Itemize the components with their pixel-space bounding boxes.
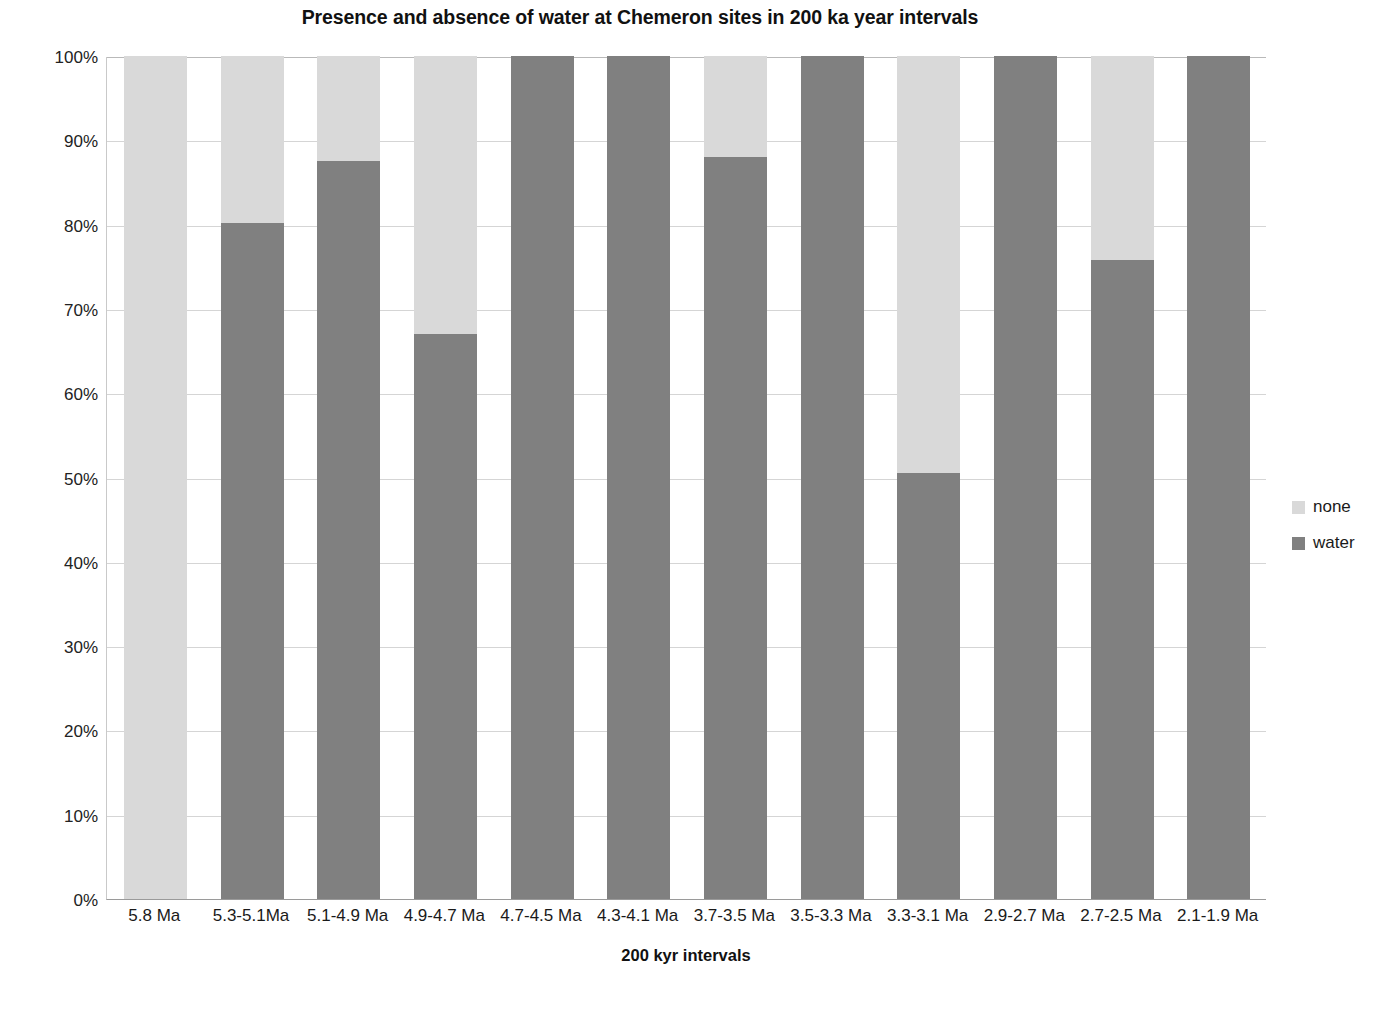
bar-segment-water[interactable] — [1091, 260, 1154, 899]
bar-segment-none[interactable] — [414, 56, 477, 334]
bar-segment-water[interactable] — [511, 56, 574, 899]
bar-group[interactable] — [704, 57, 767, 899]
bar-segment-none[interactable] — [704, 56, 767, 157]
x-tick-label: 3.5-3.3 Ma — [783, 906, 880, 926]
y-tick-label: 90% — [28, 132, 98, 152]
y-tick-label: 40% — [28, 554, 98, 574]
y-tick-label: 30% — [28, 638, 98, 658]
bar-segment-water[interactable] — [317, 161, 380, 899]
bar-group[interactable] — [511, 57, 574, 899]
x-tick-label: 4.9-4.7 Ma — [396, 906, 493, 926]
x-tick-label: 5.8 Ma — [106, 906, 203, 926]
x-tick-label: 2.9-2.7 Ma — [976, 906, 1073, 926]
bar-segment-water[interactable] — [1187, 56, 1250, 899]
bar-segment-none[interactable] — [124, 56, 187, 899]
bar-segment-none[interactable] — [897, 56, 960, 473]
legend-label: none — [1313, 497, 1351, 517]
bar-group[interactable] — [801, 57, 864, 899]
bar-segment-water[interactable] — [414, 334, 477, 899]
bar-group[interactable] — [221, 57, 284, 899]
bar-group[interactable] — [1091, 57, 1154, 899]
bar-segment-none[interactable] — [317, 56, 380, 161]
bar-segment-water[interactable] — [221, 223, 284, 899]
legend-swatch-icon — [1292, 537, 1305, 550]
chart-legend: nonewater — [1292, 489, 1376, 561]
chart-title: Presence and absence of water at Chemero… — [0, 6, 1280, 29]
bar-group[interactable] — [897, 57, 960, 899]
y-tick-label: 10% — [28, 807, 98, 827]
x-tick-label: 5.1-4.9 Ma — [299, 906, 396, 926]
bar-segment-none[interactable] — [1091, 56, 1154, 260]
bar-segment-water[interactable] — [994, 56, 1057, 899]
x-tick-label: 4.3-4.1 Ma — [589, 906, 686, 926]
plot-area — [106, 57, 1266, 900]
x-tick-label: 3.7-3.5 Ma — [686, 906, 783, 926]
bars-layer — [107, 57, 1266, 899]
x-tick-label: 4.7-4.5 Ma — [493, 906, 590, 926]
chart-container: Presence and absence of water at Chemero… — [0, 0, 1379, 1012]
legend-item[interactable]: none — [1292, 489, 1376, 525]
bar-segment-water[interactable] — [801, 56, 864, 899]
bar-segment-none[interactable] — [221, 56, 284, 223]
y-tick-label: 80% — [28, 217, 98, 237]
bar-group[interactable] — [994, 57, 1057, 899]
x-tick-label: 3.3-3.1 Ma — [879, 906, 976, 926]
legend-label: water — [1313, 533, 1355, 553]
x-tick-label: 2.7-2.5 Ma — [1073, 906, 1170, 926]
bar-segment-water[interactable] — [607, 56, 670, 899]
legend-swatch-icon — [1292, 501, 1305, 514]
x-tick-label: 2.1-1.9 Ma — [1169, 906, 1266, 926]
y-tick-label: 100% — [28, 48, 98, 68]
y-tick-label: 60% — [28, 385, 98, 405]
y-axis-title-text: Percentage of sites reconstructe with an… — [8, 0, 34, 83]
y-tick-label: 70% — [28, 301, 98, 321]
x-tick-label: 5.3-5.1Ma — [203, 906, 300, 926]
bar-group[interactable] — [607, 57, 670, 899]
y-axis-title: Percentage of sites reconstructe with an… — [8, 0, 34, 83]
y-tick-label: 50% — [28, 470, 98, 490]
bar-group[interactable] — [1187, 57, 1250, 899]
bar-segment-water[interactable] — [897, 473, 960, 899]
y-tick-label: 0% — [28, 891, 98, 911]
bar-group[interactable] — [124, 57, 187, 899]
bar-group[interactable] — [414, 57, 477, 899]
x-axis-title: 200 kyr intervals — [106, 946, 1266, 965]
bar-group[interactable] — [317, 57, 380, 899]
bar-segment-water[interactable] — [704, 157, 767, 899]
y-tick-label: 20% — [28, 722, 98, 742]
legend-item[interactable]: water — [1292, 525, 1376, 561]
